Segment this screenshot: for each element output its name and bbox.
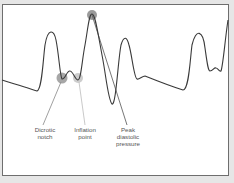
label-inflation-point-line2: point	[69, 133, 101, 140]
label-peak-diastolic-pressure: Peak diastolic pressure	[111, 126, 145, 147]
label-peak-line3: pressure	[111, 140, 145, 147]
label-inflation-point-line1: Inflation	[69, 126, 101, 133]
arterial-waveform	[2, 14, 228, 104]
waveform-diagram	[0, 0, 234, 183]
label-peak-line1: Peak	[111, 126, 145, 133]
label-dicrotic-notch-line1: Dicrotic	[30, 126, 60, 133]
label-dicrotic-notch: Dicrotic notch	[30, 126, 60, 140]
label-dicrotic-notch-line2: notch	[30, 133, 60, 140]
label-inflation-point: Inflation point	[69, 126, 101, 140]
inflation-point-marker	[73, 73, 83, 83]
inflation-point-leader	[79, 82, 85, 125]
dicrotic-notch-leader	[43, 82, 61, 125]
label-peak-line2: diastolic	[111, 133, 145, 140]
